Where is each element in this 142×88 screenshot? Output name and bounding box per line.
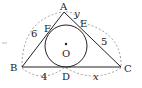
label-D: D (62, 71, 70, 82)
label-C: C (124, 63, 132, 74)
label-F: F (44, 23, 51, 34)
incircle-diagram: A B C D E F O 6 y 5 4 x (0, 0, 142, 88)
center-dot (65, 43, 67, 45)
label-A: A (59, 1, 68, 12)
label-O: O (62, 48, 70, 59)
length-BA: 6 (31, 28, 37, 39)
length-EC: 5 (101, 36, 107, 47)
incircle (45, 25, 87, 67)
label-B: B (10, 62, 17, 73)
length-AE: y (73, 8, 80, 19)
length-DC: x (93, 71, 99, 82)
label-E: E (80, 18, 87, 29)
length-BD: 4 (41, 71, 47, 82)
